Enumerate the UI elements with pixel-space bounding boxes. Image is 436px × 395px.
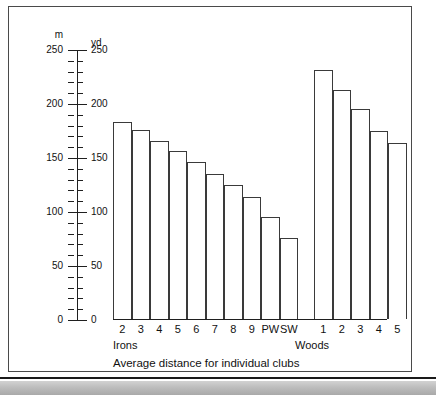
axis-tick-major-metres-150 bbox=[77, 158, 87, 159]
axis-tick-minor-metres-230 bbox=[77, 72, 83, 73]
axis-tick-minor-yards-60 bbox=[68, 255, 74, 256]
axis-tick-major-metres-250 bbox=[77, 50, 87, 51]
figure-caption: Average distance for individual clubs bbox=[113, 357, 299, 370]
group-label-woods: Woods bbox=[295, 339, 329, 351]
axis-tick-minor-yards-70 bbox=[68, 244, 74, 245]
axis-tick-label-yards-100: 100 bbox=[91, 207, 108, 217]
axis-tick-minor-yards-40 bbox=[68, 277, 74, 278]
axis-tick-minor-metres-10 bbox=[77, 309, 83, 310]
axis-tick-label-yards-250: 250 bbox=[91, 45, 108, 55]
bar-woods-4 bbox=[370, 131, 389, 319]
footer-band bbox=[0, 381, 436, 395]
axis-tick-minor-metres-30 bbox=[77, 288, 83, 289]
axis-tick-label-metres-250: 250 bbox=[46, 45, 63, 55]
bar-irons-7 bbox=[206, 174, 225, 319]
axis-tick-minor-metres-220 bbox=[77, 82, 83, 83]
axis-tick-minor-yards-30 bbox=[68, 288, 74, 289]
bar-irons-PW bbox=[261, 217, 280, 319]
axis-tick-minor-yards-130 bbox=[68, 180, 74, 181]
axis-tick-label-metres-200: 200 bbox=[46, 99, 63, 109]
axis-tick-label-yards-0: 0 bbox=[91, 315, 97, 325]
axis-tick-label-metres-50: 50 bbox=[52, 261, 63, 271]
axis-tick-minor-metres-80 bbox=[77, 234, 83, 235]
axis-tick-label-metres-0: 0 bbox=[57, 315, 63, 325]
axis-tick-major-yards-200 bbox=[68, 104, 78, 105]
category-label-irons-SW: SW bbox=[277, 323, 302, 335]
bar-irons-SW bbox=[280, 238, 299, 319]
axis-tick-minor-metres-210 bbox=[77, 93, 83, 94]
axis-tick-minor-metres-170 bbox=[77, 136, 83, 137]
group-label-irons: Irons bbox=[113, 339, 137, 351]
bar-irons-4 bbox=[150, 141, 169, 319]
axis-tick-minor-metres-140 bbox=[77, 169, 83, 170]
axis-tick-major-yards-50 bbox=[68, 266, 78, 267]
axis-tick-label-metres-150: 150 bbox=[46, 153, 63, 163]
axis-tick-minor-metres-130 bbox=[77, 180, 83, 181]
axis-tick-major-yards-250 bbox=[68, 50, 78, 51]
axis-tick-minor-metres-20 bbox=[77, 298, 83, 299]
axis-tick-major-yards-0 bbox=[68, 320, 78, 321]
bar-irons-8 bbox=[224, 185, 243, 319]
axis-tick-minor-yards-10 bbox=[68, 309, 74, 310]
axis-tick-label-yards-50: 50 bbox=[91, 261, 102, 271]
axis-tick-minor-metres-240 bbox=[77, 61, 83, 62]
axis-tick-label-yards-150: 150 bbox=[91, 153, 108, 163]
axis-tick-minor-yards-190 bbox=[68, 115, 74, 116]
axis-tick-minor-metres-120 bbox=[77, 190, 83, 191]
axis-metres-unit-label: m bbox=[55, 30, 63, 40]
axis-tick-minor-yards-170 bbox=[68, 136, 74, 137]
axis-tick-minor-yards-180 bbox=[68, 126, 74, 127]
axis-tick-minor-yards-210 bbox=[68, 93, 74, 94]
figure-frame: m 050100150200250 yd 050100150200250 234… bbox=[8, 6, 412, 372]
axis-tick-minor-yards-110 bbox=[68, 201, 74, 202]
axis-tick-minor-yards-160 bbox=[68, 147, 74, 148]
axis-tick-major-metres-0 bbox=[77, 320, 87, 321]
x-axis-baseline bbox=[113, 319, 387, 320]
axis-tick-major-yards-100 bbox=[68, 212, 78, 213]
axis-tick-minor-metres-40 bbox=[77, 277, 83, 278]
category-label-woods-5: 5 bbox=[385, 323, 410, 335]
axis-tick-minor-yards-80 bbox=[68, 234, 74, 235]
axis-tick-label-yards-200: 200 bbox=[91, 99, 108, 109]
axis-tick-minor-metres-160 bbox=[77, 147, 83, 148]
bar-woods-3 bbox=[351, 109, 370, 319]
footer-rule bbox=[0, 377, 436, 379]
bar-irons-6 bbox=[187, 162, 206, 319]
axis-tick-minor-metres-60 bbox=[77, 255, 83, 256]
axis-tick-minor-metres-180 bbox=[77, 126, 83, 127]
axis-tick-major-metres-100 bbox=[77, 212, 87, 213]
axis-tick-minor-yards-140 bbox=[68, 169, 74, 170]
bar-irons-5 bbox=[169, 151, 188, 319]
plot-area bbox=[113, 49, 387, 320]
bar-woods-1 bbox=[314, 70, 333, 319]
bar-irons-9 bbox=[243, 197, 262, 319]
axis-tick-minor-yards-240 bbox=[68, 61, 74, 62]
axis-metres-spine bbox=[77, 50, 78, 320]
category-label-row: 23456789PWSW12345 bbox=[113, 323, 387, 337]
axis-tick-minor-yards-120 bbox=[68, 190, 74, 191]
axis-tick-minor-yards-230 bbox=[68, 72, 74, 73]
bar-woods-2 bbox=[333, 90, 352, 319]
axis-tick-label-metres-100: 100 bbox=[46, 207, 63, 217]
bar-irons-3 bbox=[132, 130, 151, 319]
bar-irons-2 bbox=[113, 122, 132, 319]
axis-tick-minor-metres-190 bbox=[77, 115, 83, 116]
axis-tick-major-yards-150 bbox=[68, 158, 78, 159]
axis-tick-minor-metres-110 bbox=[77, 201, 83, 202]
axis-tick-minor-metres-70 bbox=[77, 244, 83, 245]
axis-tick-major-metres-200 bbox=[77, 104, 87, 105]
axis-tick-major-metres-50 bbox=[77, 266, 87, 267]
bar-woods-5 bbox=[388, 143, 407, 319]
axis-tick-minor-yards-90 bbox=[68, 223, 74, 224]
axis-tick-minor-yards-220 bbox=[68, 82, 74, 83]
axis-tick-minor-metres-90 bbox=[77, 223, 83, 224]
axis-tick-minor-yards-20 bbox=[68, 298, 74, 299]
